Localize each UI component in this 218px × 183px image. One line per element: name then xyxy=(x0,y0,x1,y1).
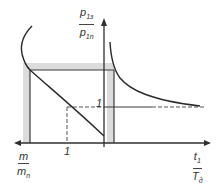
y-label-numerator-sub: 1з xyxy=(86,13,93,20)
right-curve xyxy=(110,42,200,106)
x-axis-right-label: t1 Tд xyxy=(192,150,203,183)
left-vertical-band xyxy=(23,63,30,143)
x-right-denominator-sub: д xyxy=(199,177,203,183)
x-right-numerator-sub: 1 xyxy=(197,157,201,164)
x-right-denominator: T xyxy=(192,170,199,182)
x-left-denominator: m xyxy=(17,165,26,177)
diagram-canvas xyxy=(0,0,218,183)
y-label-denominator-sub: 1n xyxy=(86,33,94,40)
x-left-numerator: m xyxy=(19,150,28,162)
right-vertical-band xyxy=(107,63,114,143)
x-axis-left-arrow-icon xyxy=(14,140,21,146)
y-tick-one: 1 xyxy=(96,98,102,109)
x-axis-left-label: m mn xyxy=(17,150,30,182)
x-tick-one: 1 xyxy=(64,146,70,157)
x-left-denominator-sub: n xyxy=(26,172,30,179)
top-horizontal-band xyxy=(23,63,114,70)
y-axis-arrow-icon xyxy=(101,18,107,26)
x-axis-right-arrow-icon xyxy=(204,140,211,146)
y-axis-label: p1з p1n xyxy=(79,6,94,43)
